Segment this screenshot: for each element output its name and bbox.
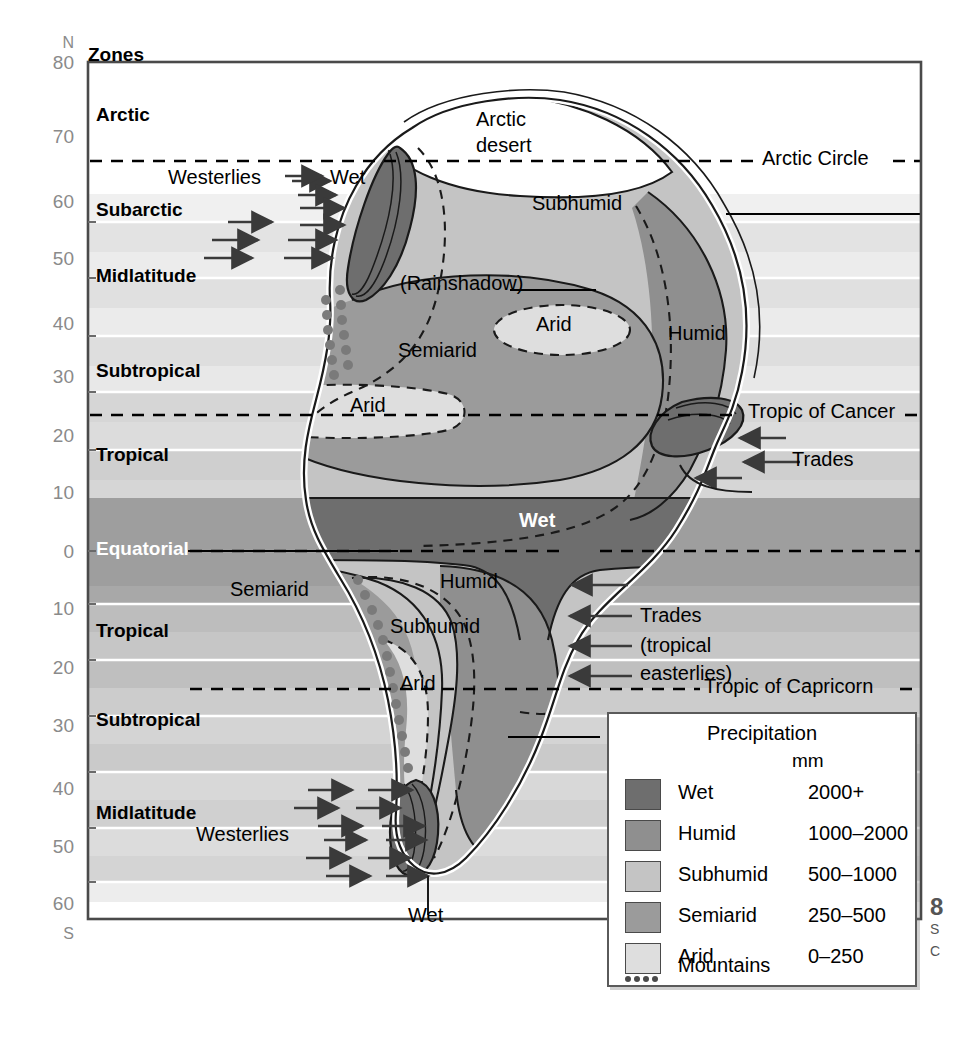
legend-label-mountains: Mountains xyxy=(678,954,770,977)
legend-value-semiarid: 250–500 xyxy=(808,904,886,927)
label-arctic-circle: Arctic Circle xyxy=(762,147,869,170)
caption-line-1: S xyxy=(930,919,961,941)
zone-subtropical-north: Subtropical xyxy=(96,360,201,382)
legend-unit: mm xyxy=(792,750,824,772)
zone-tropical-north: Tropical xyxy=(96,444,169,466)
legend-value-humid: 1000–2000 xyxy=(808,822,908,845)
caption-line-2: C xyxy=(930,941,961,963)
label-wet-equatorial: Wet xyxy=(519,509,555,532)
legend-row-wet: Wet 2000+ xyxy=(625,776,903,814)
label-subhumid-south: Subhumid xyxy=(390,615,480,638)
mountains-dots-icon xyxy=(625,968,663,975)
legend-row-mountains: Mountains xyxy=(625,954,903,992)
axis-hemisphere-north: N xyxy=(40,34,74,52)
figure-caption-cropped: 8 S C xyxy=(930,895,961,962)
label-arid-lower: Arid xyxy=(350,394,386,417)
axis-tick-40n: 40 xyxy=(40,313,74,335)
legend-swatch-humid xyxy=(625,820,661,851)
axis-tick-50s: 50 xyxy=(40,836,74,858)
axis-tick-30s: 30 xyxy=(40,715,74,737)
axis-tick-40s: 40 xyxy=(40,778,74,800)
label-trades-south-sub-line1: (tropical xyxy=(640,634,711,657)
zone-equatorial: Equatorial xyxy=(96,538,189,560)
legend-swatch-wet xyxy=(625,779,661,810)
axis-hemisphere-south: S xyxy=(40,925,74,943)
precipitation-legend: Precipitation mm Wet 2000+ Humid 1000–20… xyxy=(607,712,917,987)
legend-label-semiarid: Semiarid xyxy=(678,904,757,927)
climate-zones-figure: N 80 70 60 50 40 30 20 10 0 10 20 30 40 … xyxy=(0,0,961,1057)
zone-tropical-south: Tropical xyxy=(96,620,169,642)
axis-tick-0: 0 xyxy=(40,541,74,563)
legend-row-subhumid: Subhumid 500–1000 xyxy=(625,858,903,896)
zone-midlatitude-south: Midlatitude xyxy=(96,802,196,824)
legend-swatch-semiarid xyxy=(625,902,661,933)
legend-value-wet: 2000+ xyxy=(808,781,864,804)
legend-label-subhumid: Subhumid xyxy=(678,863,768,886)
legend-value-subhumid: 500–1000 xyxy=(808,863,897,886)
zone-midlatitude-north: Midlatitude xyxy=(96,265,196,287)
zone-subtropical-south: Subtropical xyxy=(96,709,201,731)
zone-arctic-north: Arctic xyxy=(96,104,150,126)
label-wet-northwest: Wet xyxy=(330,166,365,189)
label-arid-upper: Arid xyxy=(536,313,572,336)
label-semiarid-south: Semiarid xyxy=(230,578,309,601)
axis-tick-50n: 50 xyxy=(40,248,74,270)
axis-tick-70n: 70 xyxy=(40,126,74,148)
label-arid-south: Arid xyxy=(400,672,436,695)
label-tropic-of-cancer: Tropic of Cancer xyxy=(748,400,895,423)
label-westerlies-north: Westerlies xyxy=(168,166,261,189)
label-humid-south: Humid xyxy=(440,570,498,593)
axis-tick-20n: 20 xyxy=(40,425,74,447)
legend-label-humid: Humid xyxy=(678,822,736,845)
axis-tick-60n: 60 xyxy=(40,191,74,213)
label-rainshadow: (Rainshadow) xyxy=(400,272,523,295)
zone-subarctic-north: Subarctic xyxy=(96,199,183,221)
label-arctic-desert-line1: Arctic xyxy=(476,108,526,131)
label-arctic-desert-line2: desert xyxy=(476,134,532,157)
legend-row-humid: Humid 1000–2000 xyxy=(625,817,903,855)
axis-tick-20s: 20 xyxy=(40,657,74,679)
label-tropic-of-capricorn: Tropic of Capricorn xyxy=(704,675,873,698)
label-trades-north: Trades xyxy=(792,448,854,471)
label-trades-south: Trades xyxy=(640,604,702,627)
axis-tick-30n: 30 xyxy=(40,366,74,388)
axis-tick-10s: 10 xyxy=(40,598,74,620)
figure-number: 8 xyxy=(930,895,961,919)
label-wet-southwest: Wet xyxy=(408,904,443,927)
label-humid-northeast: Humid xyxy=(668,322,726,345)
zones-header: Zones xyxy=(88,44,144,66)
axis-tick-60s: 60 xyxy=(40,893,74,915)
legend-label-wet: Wet xyxy=(678,781,713,804)
legend-title: Precipitation xyxy=(609,722,915,745)
legend-swatch-subhumid xyxy=(625,861,661,892)
axis-tick-80n: 80 xyxy=(40,52,74,74)
label-subhumid-north: Subhumid xyxy=(532,192,622,215)
label-westerlies-south: Westerlies xyxy=(196,823,289,846)
legend-row-semiarid: Semiarid 250–500 xyxy=(625,899,903,937)
axis-tick-10n: 10 xyxy=(40,482,74,504)
label-semiarid-north: Semiarid xyxy=(398,339,477,362)
